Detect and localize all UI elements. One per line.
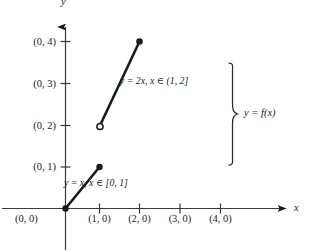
- endpoint-closed-1-1: [96, 164, 102, 170]
- x-tick-label-4: (4, 0): [209, 214, 232, 225]
- figure-graph-of-piecewise-function: y x (0, 4) (0, 3) (0, 2) (0, 1) (0, 0) (…: [0, 0, 314, 252]
- x-axis-label: x: [294, 203, 299, 214]
- y-tick-label-2: (0, 2): [8, 120, 56, 131]
- grouping-brace: [229, 63, 238, 165]
- y-tick-label-1: (0, 1): [8, 162, 56, 173]
- x-tick-label-2: (2, 0): [128, 214, 151, 225]
- annotation-lower-segment-equation: y = x, x ∈ [0, 1]: [64, 178, 128, 188]
- x-tick-label-1: (1, 0): [88, 214, 111, 225]
- annotation-function-label: y = f(x): [244, 108, 276, 119]
- y-tick-label-3: (0, 3): [8, 78, 56, 89]
- y-axis-label: y: [61, 0, 66, 8]
- endpoint-open-1-2: [97, 123, 103, 129]
- y-tick-label-4: (0, 4): [8, 36, 56, 47]
- endpoint-closed-2-4: [136, 38, 143, 45]
- x-tick-label-3: (3, 0): [169, 214, 192, 225]
- annotation-upper-segment-equation: y = 2x, x ∈ (1, 2]: [120, 76, 188, 86]
- origin-label: (0, 0): [15, 214, 38, 225]
- endpoint-closed-origin: [62, 205, 68, 211]
